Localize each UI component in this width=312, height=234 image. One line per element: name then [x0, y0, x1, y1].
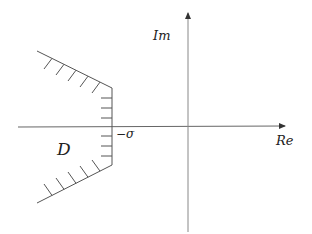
complex-plane-diagram: Im Re −σ D [0, 0, 312, 234]
imaginary-axis-label: Im [152, 28, 170, 43]
real-axis [18, 126, 285, 127]
region-label: D [56, 139, 71, 159]
real-axis-label: Re [275, 133, 294, 148]
sigma-marker-label: −σ [116, 127, 135, 141]
